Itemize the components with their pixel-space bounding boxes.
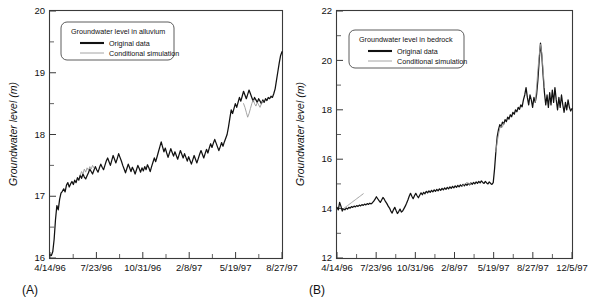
panel-a-original-data-line [50,52,282,256]
panel-b-bedrock: 121416182022 4/14/967/23/9610/31/962/8/9… [291,0,591,302]
panel-b-y-axis-label: Groundwater level (m) [294,82,306,186]
panel-b-legend-label-original: Original data [397,47,438,56]
panel-a-legend-label-simulation: Conditional simulation [109,49,179,58]
panel-a-y-tick-labels: 1617181920 [34,5,45,263]
panel-a-y-axis-label: Groundwater level (m) [7,82,19,186]
panel-b-y-ticks [337,11,343,258]
x-tick-label: 10/31/96 [124,262,161,273]
x-tick-label: 12/5/97 [556,262,588,273]
panel-a-legend-label-original: Original data [109,39,150,48]
y-tick-label: 18 [321,104,332,115]
y-tick-label: 22 [321,5,332,16]
panel-a-svg: 1617181920 4/14/967/23/9610/31/962/8/975… [0,0,300,302]
y-tick-label: 17 [34,190,45,201]
panel-b-original-data-line [337,43,572,213]
y-tick-label: 20 [321,55,332,66]
panel-a-x-tick-labels: 4/14/967/23/9610/31/962/8/975/19/978/27/… [34,262,298,273]
panel-b-conditional-simulation-lines [344,44,545,208]
panel-a-conditional-simulation-lines [80,100,263,175]
panel-b-legend: Groundwater level in bedrock Original da… [349,30,467,68]
y-tick-label: 18 [34,129,45,140]
x-tick-label: 4/14/96 [321,262,353,273]
x-tick-label: 2/8/97 [441,262,467,273]
panel-b-y-tick-labels: 121416182022 [321,5,332,263]
y-tick-label: 16 [321,153,332,164]
x-tick-label: 2/8/97 [176,262,202,273]
panel-a-data [50,52,282,256]
x-tick-label: 7/23/96 [360,262,392,273]
x-tick-label: 7/23/96 [81,262,113,273]
panel-b-data [337,43,572,213]
panel-b-x-tick-labels: 4/14/967/23/9610/31/962/8/975/19/978/27/… [321,262,588,273]
panel-a-legend-title: Groundwater level in alluvium [71,27,165,36]
x-tick-label: 10/31/96 [397,262,434,273]
panel-b-tag: (B) [309,283,325,297]
panel-b-svg: 121416182022 4/14/967/23/9610/31/962/8/9… [291,0,591,302]
x-tick-label: 4/14/96 [34,262,66,273]
panel-b-legend-label-simulation: Conditional simulation [397,57,467,66]
y-tick-label: 19 [34,67,45,78]
conditional-simulation-segment-2 [244,100,263,117]
panel-a-alluvium: 1617181920 4/14/967/23/9610/31/962/8/975… [0,0,300,302]
panel-a-legend: Groundwater level in alluvium Original d… [61,22,179,60]
x-tick-label: 5/19/97 [478,262,510,273]
figure-groundwater-levels: 1617181920 4/14/967/23/9610/31/962/8/975… [0,0,591,302]
panel-b-legend-title: Groundwater level in bedrock [359,35,453,44]
x-tick-label: 5/19/97 [220,262,252,273]
panel-a-x-ticks [50,252,282,258]
x-tick-label: 8/27/97 [517,262,549,273]
y-tick-label: 14 [321,203,332,214]
panel-a-tag: (A) [22,283,38,297]
y-tick-label: 20 [34,5,45,16]
panel-b-x-ticks [337,252,572,258]
